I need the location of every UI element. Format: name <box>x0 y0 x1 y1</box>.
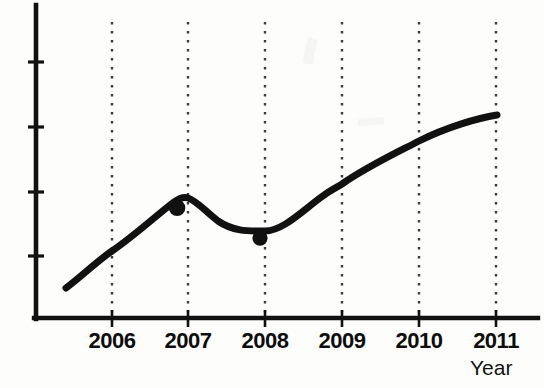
data-point-2008 <box>252 231 267 246</box>
data-line-series <box>66 115 497 288</box>
line-chart: 2006 2007 2008 2009 2010 2011 Year <box>0 0 544 388</box>
x-tick-label-2008: 2008 <box>242 330 289 352</box>
x-tick-label-2010: 2010 <box>396 330 443 352</box>
x-tick-label-2011: 2011 <box>473 330 519 352</box>
x-tick-label-2009: 2009 <box>319 330 366 352</box>
x-axis-title: Year <box>470 357 512 378</box>
gridlines <box>112 22 496 318</box>
x-tick-label-2006: 2006 <box>89 330 136 352</box>
x-tick-label-2007: 2007 <box>165 330 212 352</box>
axis-lines <box>34 5 538 319</box>
data-point-2007 <box>169 200 185 216</box>
